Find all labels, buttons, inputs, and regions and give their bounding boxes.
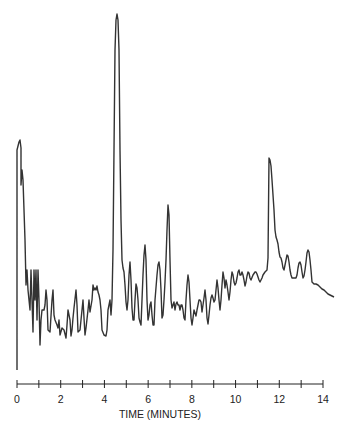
x-tick-label: 14 xyxy=(317,393,329,405)
chromatogram-trace xyxy=(17,14,334,370)
chromatogram-chart: 02468101214 TIME (MINUTES) xyxy=(0,0,358,439)
x-axis-title: TIME (MINUTES) xyxy=(119,408,201,420)
x-tick-label: 6 xyxy=(145,393,151,405)
x-tick-label: 2 xyxy=(58,393,64,405)
x-tick-label: 8 xyxy=(189,393,195,405)
x-tick-label: 10 xyxy=(230,393,242,405)
x-axis-tick-labels: 02468101214 xyxy=(14,393,329,405)
x-tick-label: 0 xyxy=(14,393,20,405)
x-tick-label: 12 xyxy=(273,393,285,405)
x-tick-label: 4 xyxy=(102,393,108,405)
